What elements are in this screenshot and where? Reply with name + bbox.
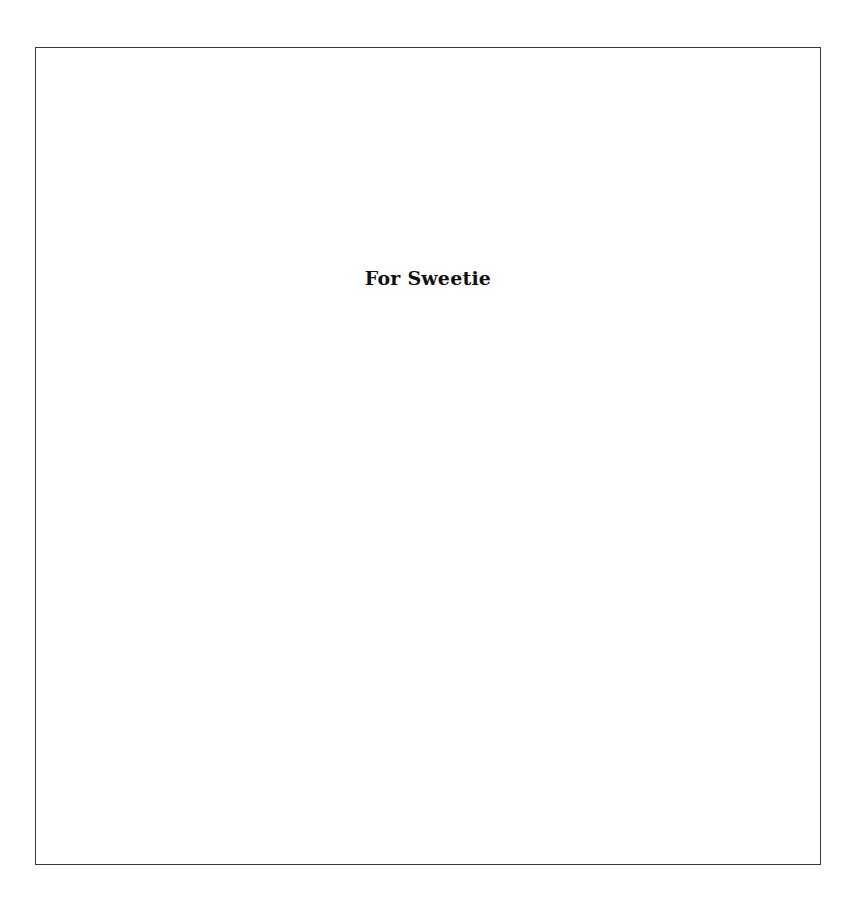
dedication-title: For Sweetie	[36, 267, 820, 289]
page-frame: For Sweetie	[35, 47, 821, 865]
